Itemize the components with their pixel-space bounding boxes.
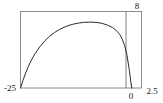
plot-svg: 8 -25 0 2.5: [0, 0, 163, 103]
y-axis-bottom-label: -25: [4, 83, 16, 93]
x-axis-max-label: 2.5: [146, 86, 158, 96]
y-axis-top-label: 8: [135, 1, 140, 11]
x-axis-origin-label: 0: [129, 91, 134, 101]
chart-container: 8 -25 0 2.5: [0, 0, 163, 103]
